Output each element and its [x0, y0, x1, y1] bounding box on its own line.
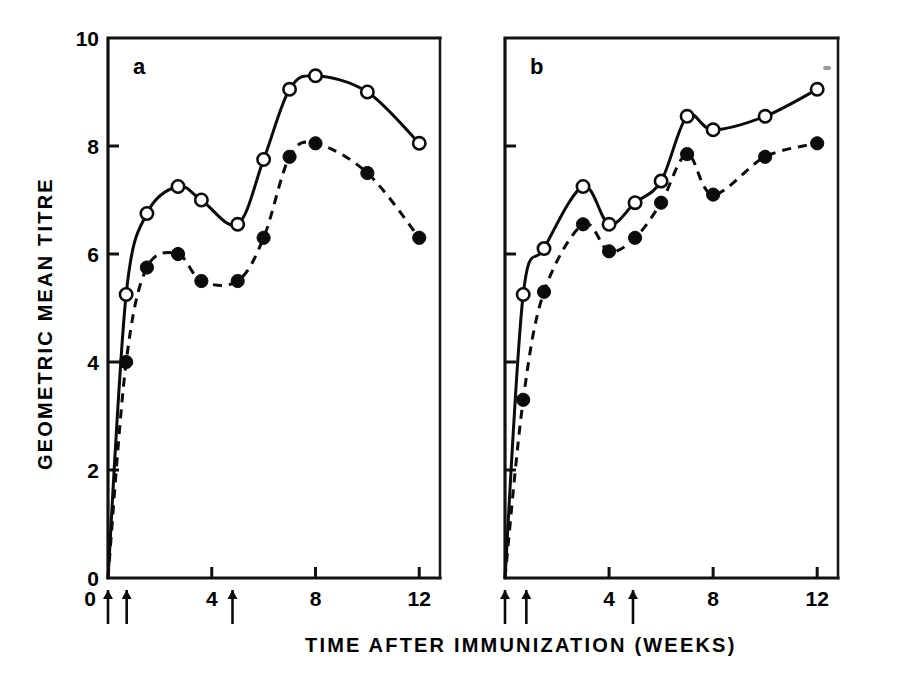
- data-point-open: [141, 207, 153, 219]
- figure-root: GEOMETRIC MEAN TITRE TIME AFTER IMMUNIZA…: [0, 0, 900, 676]
- data-point-open: [257, 153, 269, 165]
- data-point-open: [655, 175, 667, 187]
- data-point-open: [811, 83, 823, 95]
- data-point-open: [707, 124, 719, 136]
- x-axis-title-text: TIME AFTER IMMUNIZATION (WEEKS): [305, 634, 737, 656]
- data-point-open: [681, 110, 693, 122]
- data-point-open: [361, 86, 373, 98]
- data-point-filled: [759, 150, 772, 163]
- data-point-open: [629, 197, 641, 209]
- data-point-open: [577, 180, 589, 192]
- panel-label-a: a: [133, 54, 146, 79]
- x-tick-label-12: 12: [408, 587, 431, 610]
- data-point-open: [120, 288, 132, 300]
- data-point-filled: [576, 218, 589, 231]
- y-tick-label-4: 4: [87, 351, 99, 374]
- data-point-filled: [171, 247, 184, 260]
- x-tick-label-4: 4: [206, 587, 218, 610]
- scientific-figure: GEOMETRIC MEAN TITRE TIME AFTER IMMUNIZA…: [0, 0, 900, 676]
- data-point-open: [603, 218, 615, 230]
- data-point-open: [283, 83, 295, 95]
- y-tick-label-2: 2: [87, 459, 99, 482]
- data-point-filled: [602, 245, 615, 258]
- panel-label-b: b: [530, 54, 543, 79]
- data-point-filled: [257, 231, 270, 244]
- data-point-open: [517, 288, 529, 300]
- x-axis-title: TIME AFTER IMMUNIZATION (WEEKS): [305, 634, 737, 656]
- y-axis-title: GEOMETRIC MEAN TITRE: [34, 177, 56, 470]
- data-point-filled: [140, 261, 153, 274]
- data-point-open: [309, 70, 321, 82]
- data-point-open: [538, 242, 550, 254]
- data-point-open: [172, 180, 184, 192]
- y-tick-label-8: 8: [87, 135, 99, 158]
- y-axis-title-text: GEOMETRIC MEAN TITRE: [34, 177, 56, 470]
- data-point-filled: [195, 274, 208, 287]
- data-point-filled: [361, 166, 374, 179]
- x-tick-label-8: 8: [707, 587, 719, 610]
- data-point-filled: [707, 188, 720, 201]
- data-point-open: [195, 194, 207, 206]
- data-point-open: [231, 218, 243, 230]
- data-point-filled: [120, 355, 133, 368]
- figure-background: [0, 0, 900, 676]
- data-point-filled: [517, 393, 530, 406]
- y-tick-label-10: 10: [76, 27, 99, 50]
- data-point-filled: [413, 231, 426, 244]
- x-tick-label-4: 4: [603, 587, 615, 610]
- data-point-filled: [537, 285, 550, 298]
- data-point-filled: [654, 196, 667, 209]
- data-point-open: [413, 137, 425, 149]
- data-point-filled: [309, 137, 322, 150]
- x-tick-label-12: 12: [806, 587, 829, 610]
- data-point-open: [759, 110, 771, 122]
- y-tick-label-6: 6: [87, 243, 99, 266]
- scan-artifact-speck: [823, 66, 831, 70]
- data-point-filled: [681, 148, 694, 161]
- x-tick-label-0: 0: [84, 587, 96, 610]
- data-point-filled: [283, 150, 296, 163]
- data-point-filled: [231, 274, 244, 287]
- data-point-filled: [811, 137, 824, 150]
- data-point-filled: [628, 231, 641, 244]
- x-tick-label-8: 8: [310, 587, 322, 610]
